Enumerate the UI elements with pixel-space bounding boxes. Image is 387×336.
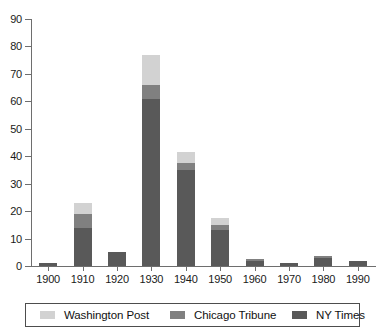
legend-swatch-icon bbox=[40, 311, 55, 319]
chart-legend: Washington PostChicago TribuneNY Times bbox=[25, 303, 360, 327]
stacked-bar-chart: 0102030405060708090 19001910192019301940… bbox=[0, 0, 387, 336]
bar-segment bbox=[177, 152, 195, 163]
y-axis-tick-label: 80 bbox=[0, 41, 22, 52]
bar-1990[interactable] bbox=[349, 261, 367, 266]
bars-container bbox=[31, 19, 375, 266]
bar-segment bbox=[177, 163, 195, 170]
legend-label: Chicago Tribune bbox=[194, 309, 276, 321]
bar-segment bbox=[246, 261, 264, 266]
bar-1960[interactable] bbox=[246, 259, 264, 266]
x-axis-tick bbox=[186, 266, 187, 271]
bar-segment bbox=[74, 228, 92, 266]
x-axis-tick bbox=[323, 266, 324, 271]
legend-item[interactable]: Chicago Tribune bbox=[170, 309, 276, 321]
y-axis-tick-label: 70 bbox=[0, 69, 22, 80]
legend-label: Washington Post bbox=[64, 309, 149, 321]
x-axis-tick bbox=[48, 266, 49, 271]
y-axis-tick-label: 20 bbox=[0, 206, 22, 217]
bar-1970[interactable] bbox=[280, 263, 298, 266]
bar-segment bbox=[74, 214, 92, 228]
y-axis-tick-label: 0 bbox=[0, 261, 22, 272]
x-axis-tick bbox=[83, 266, 84, 271]
bar-segment bbox=[142, 85, 160, 99]
bar-1900[interactable] bbox=[39, 263, 57, 266]
y-axis-tick bbox=[25, 266, 31, 267]
x-axis-tick bbox=[289, 266, 290, 271]
y-axis-tick-label: 40 bbox=[0, 151, 22, 162]
y-axis-tick-label: 50 bbox=[0, 124, 22, 135]
bar-1910[interactable] bbox=[74, 203, 92, 266]
bar-segment bbox=[142, 99, 160, 266]
legend-item[interactable]: Washington Post bbox=[40, 309, 149, 321]
bar-1950[interactable] bbox=[211, 218, 229, 266]
legend-swatch-icon bbox=[292, 311, 307, 319]
bar-segment bbox=[349, 261, 367, 266]
bar-segment bbox=[211, 218, 229, 225]
legend-swatch-icon bbox=[170, 311, 185, 319]
bar-1930[interactable] bbox=[142, 55, 160, 266]
x-axis-tick bbox=[358, 266, 359, 271]
bar-1920[interactable] bbox=[108, 252, 126, 266]
y-axis-tick-label: 60 bbox=[0, 96, 22, 107]
bar-segment bbox=[108, 252, 126, 266]
bar-segment bbox=[211, 230, 229, 266]
x-axis-tick bbox=[117, 266, 118, 271]
y-axis-tick-label: 30 bbox=[0, 179, 22, 190]
y-axis-tick-label: 90 bbox=[0, 14, 22, 25]
plot-region: 0102030405060708090 19001910192019301940… bbox=[0, 0, 387, 285]
bar-segment bbox=[280, 263, 298, 266]
bar-segment bbox=[39, 263, 57, 266]
bar-segment bbox=[314, 258, 332, 266]
bar-segment bbox=[177, 170, 195, 266]
x-axis-tick bbox=[255, 266, 256, 271]
bar-1940[interactable] bbox=[177, 152, 195, 266]
bar-segment bbox=[74, 203, 92, 214]
y-axis-tick-label: 10 bbox=[0, 234, 22, 245]
x-axis-tick-label: 1990 bbox=[338, 273, 378, 285]
bar-segment bbox=[142, 55, 160, 85]
legend-item[interactable]: NY Times bbox=[292, 309, 365, 321]
legend-label: NY Times bbox=[316, 309, 365, 321]
x-axis-tick bbox=[151, 266, 152, 271]
x-axis-tick bbox=[220, 266, 221, 271]
bar-1980[interactable] bbox=[314, 256, 332, 266]
